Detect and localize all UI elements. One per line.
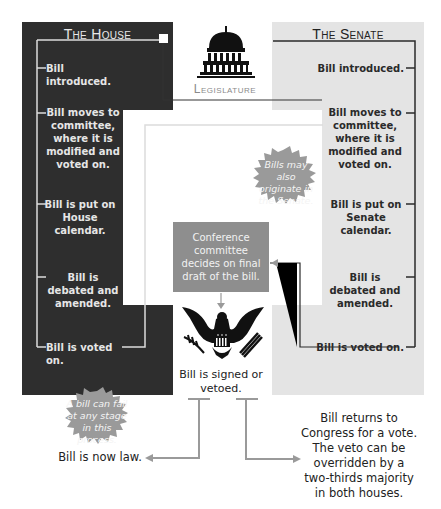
senate-step-committee: Bill moves to committee, where it is mod…	[326, 106, 404, 171]
house-fail-note: A bill can fail at any stage in this pro…	[64, 398, 130, 446]
senate-step-debated: Bill is debated and amended.	[326, 271, 404, 310]
legislature-label: Legislature	[170, 82, 280, 96]
house-step-calendar: Bill is put on House calendar.	[38, 198, 122, 237]
conference-committee-box: Conference committee decides on final dr…	[173, 222, 269, 292]
signed-or-vetoed: Bill is signed or vetoed.	[168, 368, 274, 396]
outcome-law: Bill is now law.	[52, 450, 148, 464]
senate-step-introduced: Bill introduced.	[310, 62, 404, 75]
house-step-introduced: Bill introduced.	[46, 62, 126, 88]
house-step-debated: Bill is debated and amended.	[44, 271, 122, 310]
senate-origin-note: Bills may also originate in the Senate.	[255, 159, 317, 207]
senate-title: The Senate	[272, 26, 424, 42]
capitol-icon	[197, 26, 255, 78]
outcome-veto: Bill returns to Congress for a vote. The…	[300, 411, 418, 501]
presidential-eagle-icon	[178, 305, 268, 367]
senate-step-calendar: Bill is put on Senate calendar.	[324, 198, 408, 237]
house-title: The House	[22, 26, 173, 42]
house-step-committee: Bill moves to committee, where it is mod…	[44, 106, 122, 171]
senate-step-voted: Bill is voted on.	[300, 341, 404, 354]
house-step-voted: Bill is voted on.	[46, 341, 126, 367]
